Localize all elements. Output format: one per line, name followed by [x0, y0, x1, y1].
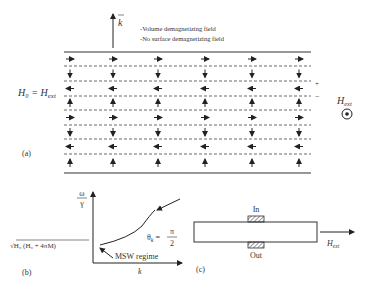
note-volume: -Volume demagnetizing field: [140, 25, 216, 32]
msw-regime-label: MSW regime: [115, 252, 159, 261]
output-antenna: [248, 242, 264, 248]
panel-b: ω γ k √H₀ (H₀ + 4πM) MSW regime θk = π 2…: [10, 189, 182, 277]
in-label: In: [253, 205, 260, 214]
out-label: Out: [250, 251, 263, 260]
panel-c-label: (c): [196, 265, 205, 274]
pi-label: π: [170, 227, 174, 236]
panel-c: In Out Hext (c): [194, 205, 354, 274]
k-axis-label: k: [138, 267, 142, 276]
film-slab: [194, 222, 317, 242]
magnetization-arrows: [66, 59, 303, 167]
msw-pointer-arrow: [100, 248, 113, 258]
omega-label: ω: [79, 189, 84, 198]
panel-b-label: (b): [22, 268, 32, 277]
diagram-canvas: k -Volume demagnetizing field -No surfac…: [0, 0, 373, 295]
k-label: k: [118, 17, 123, 28]
dashed-layers: [64, 66, 311, 154]
minus-sign: −: [315, 92, 320, 101]
plus-sign: +: [315, 80, 319, 88]
theta-k-label: θk =: [147, 233, 161, 243]
panel-a-label: (a): [22, 149, 31, 158]
curve-pointer-arrow: [157, 199, 180, 210]
two-label: 2: [170, 239, 174, 248]
hext-label-a: Hext: [336, 95, 352, 107]
note-surface: -No surface demagnetizing field: [140, 35, 225, 42]
intercept-label: √H₀ (H₀ + 4πM): [10, 242, 57, 250]
input-antenna: [248, 216, 264, 222]
gamma-label: γ: [79, 199, 84, 208]
hext-label-c: Hext: [326, 239, 340, 249]
panel-a: k -Volume demagnetizing field -No surfac…: [17, 14, 352, 173]
h0-equals-hext-label: H₀ = Hext: [17, 87, 57, 100]
